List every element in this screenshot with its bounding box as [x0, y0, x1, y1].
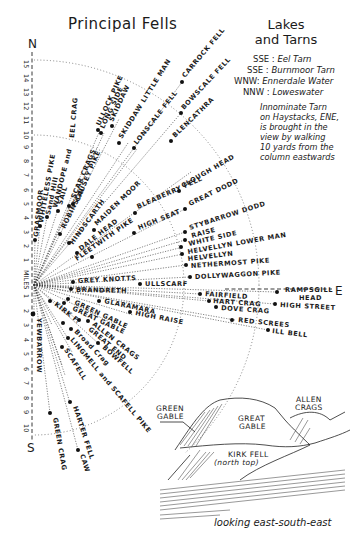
label-ill-bell: ILL BELL — [272, 327, 309, 339]
label-dollywaggon-pike: DOLLYWAGGON PIKE — [195, 269, 281, 281]
svg-text:13: 13 — [22, 88, 30, 96]
svg-text:5: 5 — [22, 352, 30, 356]
lake-name: Ennerdale Water — [262, 76, 333, 86]
north-ticks: 15 14 13 12 11 10 9 8 7 6 5 4 3 2 1 MILE… — [22, 60, 30, 432]
label-rampsgill-head-2: HEAD — [299, 294, 322, 302]
lakes-title-line1: Lakes — [267, 17, 304, 32]
label-high-seat: HIGH SEAT — [137, 208, 182, 232]
ridge-line — [180, 430, 350, 448]
note-line: 10 yards from the — [260, 142, 334, 152]
label-harter-fell: HARTER FELL — [71, 405, 96, 461]
svg-text:2: 2 — [22, 244, 30, 248]
svg-text:8: 8 — [22, 396, 30, 400]
label-rampsgill-head: RAMPSGILL — [285, 286, 333, 294]
lake-bearing: WNW — [234, 76, 258, 86]
sketch-label-kirk-fell-2: (north top) — [214, 458, 259, 467]
svg-text:6: 6 — [22, 188, 30, 192]
svg-text:6: 6 — [22, 367, 30, 371]
svg-text:10: 10 — [22, 131, 30, 139]
label-dove-crag: DOVE CRAG — [221, 304, 270, 315]
svg-text:4: 4 — [22, 338, 30, 342]
note-line: Innominate Tarn — [260, 102, 327, 112]
svg-text:1: 1 — [22, 294, 30, 298]
svg-text:4: 4 — [22, 216, 30, 220]
svg-text:12: 12 — [22, 102, 30, 110]
label-high-raise: HIGH RAISE — [135, 309, 185, 326]
svg-text:9: 9 — [22, 145, 30, 149]
svg-text:5: 5 — [22, 202, 30, 206]
lake-name: Loweswater — [272, 87, 323, 97]
svg-text:14: 14 — [22, 74, 30, 82]
svg-text:8: 8 — [22, 159, 30, 163]
label-high-street: HIGH STREET — [280, 301, 336, 312]
note-line: is brought in the — [260, 122, 328, 132]
green-gable-outline — [160, 422, 195, 432]
svg-text:10: 10 — [22, 424, 30, 432]
label-ullscarf: ULLSCARF — [145, 280, 188, 288]
sketch-label-green-gable-2: GABLE — [157, 412, 184, 421]
svg-text:11: 11 — [22, 116, 30, 124]
lakes-and-tarns-panel: Lakes and Tarns SSE : Eel Tarn SSE : Bur… — [234, 17, 339, 162]
lake-name: Burnmoor Tarn — [271, 65, 334, 75]
sketch-label-great-gable-2: GABLE — [239, 422, 266, 431]
label-grey-knotts: GREY KNOTTS — [78, 274, 137, 285]
lakes-title-line2: and Tarns — [255, 32, 318, 47]
page-title: Principal Fells — [68, 15, 177, 33]
view-diagram: Principal Fells Lakes and Tarns SSE : Ee… — [0, 0, 364, 541]
svg-text:9: 9 — [22, 410, 30, 414]
note-line: view by walking — [260, 132, 326, 142]
svg-text:7: 7 — [22, 173, 30, 177]
lake-entry: WNW: Ennerdale Water — [234, 76, 334, 86]
svg-text:2: 2 — [22, 309, 30, 313]
label-lonscale-fell: LONSCALE FELL — [132, 89, 179, 146]
lake-entry: SSE : Eel Tarn — [253, 54, 312, 64]
great-gable-sketch: GREEN GABLE GREAT GABLE ALLEN CRAGS KIRK… — [156, 395, 350, 528]
lake-bearing: NNW — [243, 87, 265, 97]
lake-entry: NNW : Loweswater — [243, 87, 324, 97]
note-line: on Haystacks, ENE, — [260, 112, 339, 122]
label-eel-crag: EEL CRAG — [68, 97, 80, 138]
lake-bearing: SSE — [247, 65, 263, 75]
scale-unit-label: MILES — [22, 270, 30, 289]
lake-entry: SSE : Burnmoor Tarn — [247, 65, 335, 75]
lake-bearing: SSE — [253, 54, 269, 64]
note-line: column eastwards — [260, 152, 336, 162]
svg-text:3: 3 — [22, 230, 30, 234]
svg-text:1: 1 — [22, 258, 30, 262]
svg-text:15: 15 — [22, 60, 30, 68]
label-stybarrow-dodd: STYBARROW DODD — [188, 200, 266, 232]
svg-text:7: 7 — [22, 381, 30, 385]
compass-north: N — [28, 37, 37, 51]
sketch-caption: looking east-south-east — [214, 517, 332, 528]
lake-name: Eel Tarn — [277, 54, 311, 64]
compass-south: S — [27, 441, 35, 455]
svg-text:3: 3 — [22, 323, 30, 327]
sketch-label-allen-crags-2: CRAGS — [295, 403, 323, 412]
allen-crags-outline — [290, 412, 330, 420]
compass-east: E — [335, 284, 343, 298]
label-green-crag: GREEN CRAG — [51, 417, 68, 471]
label-brandreth: BRANDRETH — [76, 286, 127, 295]
label-yewbarrow: YEWBARROW — [35, 317, 43, 373]
